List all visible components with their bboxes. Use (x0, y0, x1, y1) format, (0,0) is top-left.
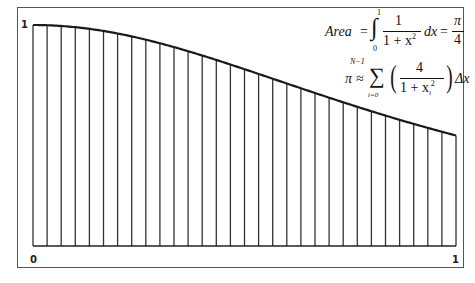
dx: dx (424, 24, 437, 40)
area-lhs: Area (325, 24, 352, 40)
equals-sign: = (360, 24, 368, 40)
delta-x: Δx (455, 71, 469, 87)
pi-approx-formula: π ≈ N−1 ∑ i=0 ( 4 1 + xi2 ) Δx (345, 55, 465, 100)
x-label-one: 1 (452, 254, 459, 265)
left-paren: ( (390, 58, 396, 95)
sigma-icon: ∑ (369, 63, 385, 89)
four-denominator: 4 (454, 32, 461, 48)
den-text: 1 + x (383, 33, 412, 48)
pi-symbol: π (345, 71, 352, 87)
fraction-numerator-2: 4 (416, 60, 423, 76)
right-paren: ) (446, 58, 452, 95)
x-label-zero: 0 (30, 254, 37, 265)
pi-numerator: π (454, 13, 461, 29)
den-exponent-2: 2 (431, 79, 435, 88)
y-label-one: 1 (21, 19, 28, 30)
den-text-2: 1 + x (400, 80, 429, 95)
den-subscript: i (429, 89, 431, 97)
fraction-numerator: 1 (395, 13, 402, 29)
approx-sign: ≈ (356, 71, 364, 87)
den-exponent: 2 (412, 32, 416, 41)
fraction-denominator: 1 + x2 (383, 32, 416, 49)
sum-upper: N−1 (350, 57, 365, 66)
integral-upper: 1 (377, 8, 381, 17)
integral-lower: 0 (373, 44, 377, 53)
sum-lower: i=0 (368, 91, 378, 99)
integral-sign: ∫ (371, 14, 378, 41)
equals-sign-2: = (440, 24, 448, 40)
fraction-denominator-2: 1 + xi2 (400, 79, 435, 97)
area-formula: Area = ∫ 1 0 1 1 + x2 dx = π 4 (325, 10, 465, 52)
